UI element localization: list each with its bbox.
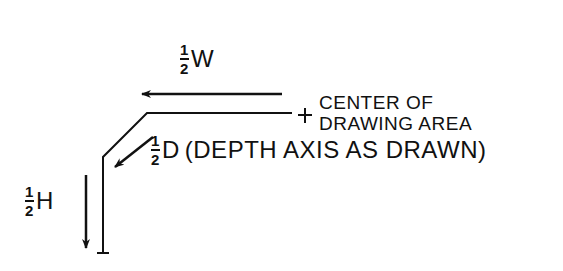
fraction-denominator: 2	[151, 152, 160, 167]
fraction-denominator: 2	[25, 203, 34, 218]
width-symbol: W	[191, 45, 214, 72]
depth-note: (DEPTH AXIS AS DRAWN)	[185, 136, 487, 163]
height-symbol: H	[36, 187, 54, 214]
fraction: 1 2	[180, 42, 189, 76]
center-label-line1: CENTER OF	[319, 92, 472, 113]
center-plus-icon	[298, 108, 312, 123]
half-height-label: 1 2 H	[25, 184, 54, 218]
half-width-label: 1 2 W	[180, 42, 214, 76]
fraction: 1 2	[25, 184, 34, 218]
fraction: 1 2	[151, 133, 160, 167]
center-label: CENTER OF DRAWING AREA	[319, 92, 472, 134]
fraction-numerator: 1	[25, 184, 34, 199]
center-label-line2: DRAWING AREA	[319, 113, 472, 134]
half-depth-label: 1 2 D (DEPTH AXIS AS DRAWN)	[151, 133, 486, 167]
fraction-denominator: 2	[180, 61, 189, 76]
fraction-numerator: 1	[180, 42, 189, 57]
depth-symbol: D	[162, 136, 180, 163]
depth-arrow	[115, 137, 153, 167]
fraction-numerator: 1	[151, 133, 160, 148]
